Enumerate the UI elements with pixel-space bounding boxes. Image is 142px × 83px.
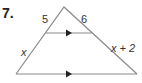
triangle-figure: 7. 5 6 x x + 2 [0, 0, 142, 83]
triangle-sides [16, 7, 137, 74]
label-6: 6 [81, 14, 87, 25]
problem-number: 7. [2, 5, 14, 21]
label-x-plus-2: x + 2 [111, 43, 135, 54]
parallel-arrow-icon [66, 71, 72, 78]
label-x: x [21, 47, 27, 58]
label-5: 5 [42, 14, 48, 25]
parallel-arrow-icon [66, 30, 72, 37]
